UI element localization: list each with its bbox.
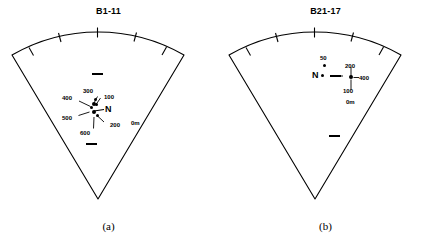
panel-b-caption: (b): [217, 220, 434, 232]
leader-lines: [79, 97, 105, 129]
sector-outline: [229, 32, 401, 199]
arc-ticks: [29, 28, 167, 56]
panel-a-caption: (a): [0, 220, 217, 232]
north-arrow: [94, 110, 104, 112]
panel-b-sector-shape: [217, 16, 434, 211]
panel-a-title: B1-11: [0, 6, 217, 16]
panel-b1-11: B1-11: [0, 0, 217, 238]
sector-outline: [12, 32, 184, 199]
panel-b21-17: B21-17: [217, 0, 434, 238]
panel-b-title: B21-17: [217, 6, 434, 16]
arc-ticks: [246, 28, 384, 56]
figure-container: B1-11: [0, 0, 434, 238]
panel-a-sector-shape: [0, 16, 217, 211]
leader-lines: [332, 67, 360, 90]
